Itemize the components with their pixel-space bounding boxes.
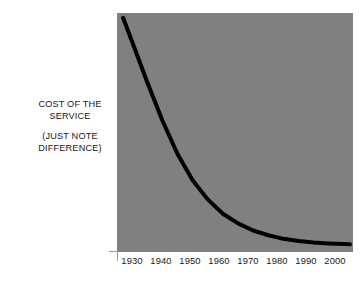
chart-figure: COST OF THE SERVICE (JUST NOTE DIFFERENC… [0,0,364,291]
y-axis-label-spacer [24,123,116,130]
x-tick-1930: 1930 [117,254,147,267]
x-tick-1960: 1960 [204,254,234,267]
plot-area [117,13,353,252]
x-axis-tick-labels: 1930 1940 1950 1960 1970 1980 1990 2000 [117,254,357,268]
y-axis-label-line-2: SERVICE [24,110,116,122]
x-tick-2000: 2000 [320,254,350,267]
y-axis-label-line-1: COST OF THE [24,98,116,110]
x-tick-1940: 1940 [146,254,176,267]
x-tick-1950: 1950 [175,254,205,267]
x-tick-1970: 1970 [233,254,263,267]
y-axis-label-line-4: DIFFERENCE) [24,142,116,154]
cost-decay-curve [123,18,350,245]
curve-svg [117,13,353,252]
y-axis-label-line-3: (JUST NOTE [24,130,116,142]
x-tick-1980: 1980 [262,254,292,267]
x-tick-1990: 1990 [291,254,321,267]
y-axis-label: COST OF THE SERVICE (JUST NOTE DIFFERENC… [24,98,116,155]
